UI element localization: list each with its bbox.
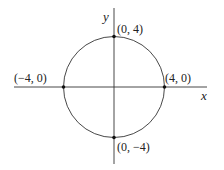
point-right [163,85,167,89]
point-bottom [112,136,116,140]
label-point-top: (0, 4) [117,22,143,36]
label-point-right: (4, 0) [165,71,191,85]
point-left [62,85,66,89]
label-point-left: (−4, 0) [14,71,47,85]
x-axis-label: x [200,88,207,103]
coordinate-diagram: y x (0, 4) (−4, 0) (4, 0) (0, −4) [0,0,224,170]
y-axis-label: y [101,9,109,24]
label-point-bottom: (0, −4) [117,140,150,154]
point-top [112,35,116,39]
